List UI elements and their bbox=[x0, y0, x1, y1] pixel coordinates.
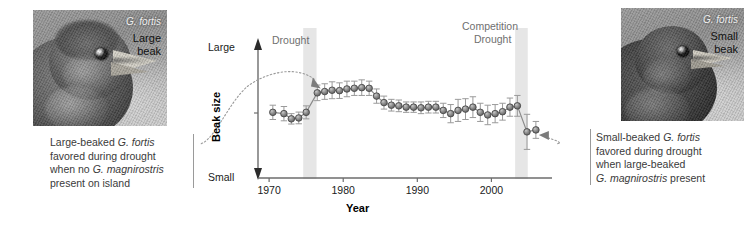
caption-right-line1-text: Small-beaked bbox=[596, 131, 663, 143]
data-point-14 bbox=[381, 99, 388, 106]
data-point-13 bbox=[373, 93, 380, 100]
caption-left-line1-text: Large-beaked bbox=[50, 136, 118, 148]
data-point-8 bbox=[336, 87, 343, 94]
caption-left-line4: present on island bbox=[50, 177, 192, 191]
x-axis-title: Year bbox=[346, 202, 369, 214]
x-tick-label-1970: 1970 bbox=[257, 184, 281, 196]
data-point-5 bbox=[314, 90, 321, 97]
x-tick-label-1990: 1990 bbox=[406, 184, 430, 196]
event-band-0 bbox=[303, 28, 316, 179]
data-point-19 bbox=[418, 105, 425, 112]
y-axis-arrow-up bbox=[254, 38, 262, 50]
data-point-31 bbox=[507, 104, 514, 111]
data-point-28 bbox=[484, 112, 491, 119]
data-point-1 bbox=[281, 110, 288, 117]
data-point-34 bbox=[533, 127, 540, 134]
data-point-7 bbox=[329, 87, 336, 94]
data-point-23 bbox=[447, 110, 454, 117]
data-point-6 bbox=[321, 88, 328, 95]
caption-right-line4: G. magnirostris present bbox=[596, 172, 746, 186]
data-point-9 bbox=[344, 86, 351, 93]
photo-species-label-left: G. fortis bbox=[126, 16, 161, 28]
caption-divider-left bbox=[193, 134, 194, 188]
photo-descriptor-right: Small beak bbox=[710, 30, 738, 56]
caption-left: Large-beaked G. fortis favored during dr… bbox=[50, 136, 192, 190]
caption-right-line4-text: present bbox=[667, 172, 705, 184]
data-point-26 bbox=[470, 104, 477, 111]
photo-descriptor-left-line1: Large bbox=[133, 32, 161, 45]
data-point-4 bbox=[303, 109, 310, 116]
data-point-24 bbox=[455, 107, 462, 114]
photo-species-label-right: G. fortis bbox=[703, 14, 738, 26]
data-point-25 bbox=[462, 106, 469, 113]
photo-descriptor-right-line2: beak bbox=[710, 43, 738, 56]
photo-descriptor-left: Large beak bbox=[133, 32, 161, 58]
caption-right-line2: favored during drought bbox=[596, 145, 746, 159]
caption-right-line3: when large-beaked bbox=[596, 158, 746, 172]
band-label-drought-1: Drought bbox=[272, 34, 309, 46]
finch-photo-large-beak: G. fortis Large beak bbox=[33, 10, 167, 126]
finch-photo-small-beak: G. fortis Small beak bbox=[621, 8, 744, 121]
data-point-21 bbox=[433, 104, 440, 111]
caption-right: Small-beaked G. fortis favored during dr… bbox=[596, 131, 746, 185]
data-point-30 bbox=[499, 108, 506, 115]
caption-left-line1: Large-beaked G. fortis bbox=[50, 136, 192, 150]
y-axis-label-small: Small bbox=[208, 171, 234, 183]
caption-left-line3-species: G. magnirostris bbox=[93, 163, 164, 175]
data-point-27 bbox=[477, 109, 484, 116]
data-point-29 bbox=[492, 110, 499, 117]
x-tick-label-2000: 2000 bbox=[480, 184, 504, 196]
caption-left-line2: favored during drought bbox=[50, 150, 192, 164]
figure-root: G. fortis Large beak G. fortis Small bea… bbox=[0, 0, 754, 226]
band-label-competition: Competition bbox=[462, 20, 518, 32]
data-point-18 bbox=[410, 104, 417, 111]
photo-descriptor-right-line1: Small bbox=[710, 30, 738, 43]
data-point-32 bbox=[514, 103, 521, 110]
data-point-22 bbox=[440, 107, 447, 114]
data-point-16 bbox=[395, 103, 402, 110]
caption-right-line4-species: G. magnirostris bbox=[596, 172, 667, 184]
x-tick-label-1980: 1980 bbox=[332, 184, 356, 196]
data-point-33 bbox=[524, 129, 531, 136]
y-axis-label-large: Large bbox=[208, 41, 235, 53]
caption-divider-right bbox=[590, 129, 591, 185]
caption-left-line3: when no G. magnirostris bbox=[50, 163, 192, 177]
caption-right-line1: Small-beaked G. fortis bbox=[596, 131, 746, 145]
data-point-10 bbox=[351, 85, 358, 92]
data-point-15 bbox=[388, 102, 395, 109]
data-point-11 bbox=[358, 84, 365, 91]
data-point-0 bbox=[270, 109, 277, 116]
data-point-12 bbox=[366, 85, 373, 92]
caption-right-line1-species: G. fortis bbox=[663, 131, 700, 143]
data-point-17 bbox=[403, 104, 410, 111]
connector-arrow-right bbox=[539, 131, 549, 140]
connector-curve-right bbox=[548, 138, 560, 144]
caption-left-line3-text: when no bbox=[50, 163, 93, 175]
caption-left-line1-species: G. fortis bbox=[118, 136, 155, 148]
data-point-3 bbox=[295, 115, 302, 122]
data-point-2 bbox=[288, 116, 295, 123]
beak-size-time-series-chart: 1970198019902000 Large Small Beak size Y… bbox=[200, 0, 560, 226]
band-label-drought-2: Drought bbox=[474, 33, 511, 45]
photo-descriptor-left-line2: beak bbox=[133, 45, 161, 58]
data-point-20 bbox=[425, 104, 432, 111]
y-axis-title: Beak size bbox=[210, 92, 222, 142]
